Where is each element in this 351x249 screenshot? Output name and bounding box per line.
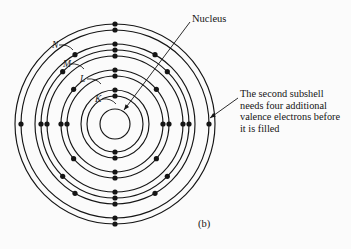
electron-dot bbox=[160, 121, 165, 126]
electron-dot bbox=[152, 191, 157, 196]
electron-dot bbox=[71, 87, 76, 92]
shell-label-leader-k bbox=[102, 99, 116, 104]
shell-label-l: L bbox=[79, 74, 85, 84]
nucleus bbox=[100, 109, 130, 139]
electron-dot bbox=[38, 121, 43, 126]
electron-dot bbox=[112, 67, 117, 72]
nucleus-annotation-label: Nucleus bbox=[192, 13, 226, 25]
shell-label-k: K bbox=[94, 94, 102, 104]
electron-dot bbox=[44, 121, 49, 126]
shell-ring-k-2 bbox=[81, 90, 149, 158]
electron-dot bbox=[112, 201, 117, 206]
shell-ring-k-1 bbox=[87, 96, 143, 152]
electron-dot bbox=[154, 156, 159, 161]
electron-dot bbox=[60, 174, 65, 179]
figure-caption: (b) bbox=[198, 218, 210, 229]
electron-dots bbox=[18, 21, 211, 226]
electron-dot bbox=[60, 69, 65, 74]
electron-dot bbox=[112, 47, 117, 52]
electron-dot bbox=[112, 73, 117, 78]
electron-dot bbox=[166, 121, 171, 126]
electron-dot bbox=[154, 87, 159, 92]
electron-dot bbox=[165, 174, 170, 179]
nucleus-circle bbox=[100, 109, 130, 139]
electron-dot bbox=[72, 52, 77, 57]
electron-dot bbox=[112, 53, 117, 58]
electron-dot bbox=[58, 121, 63, 126]
electron-dot bbox=[112, 27, 117, 32]
electron-dot bbox=[112, 41, 117, 46]
electron-dot bbox=[71, 156, 76, 161]
electron-dot bbox=[72, 191, 77, 196]
electron-dot bbox=[112, 221, 117, 226]
bohr-atom-figure: NMLK Nucleus The second subshell needs f… bbox=[0, 0, 351, 249]
electron-dot bbox=[186, 121, 191, 126]
electron-dot bbox=[112, 87, 117, 92]
nucleus-leader-arrowhead bbox=[124, 104, 129, 110]
nucleus-leader bbox=[124, 22, 190, 110]
electron-dot bbox=[112, 149, 117, 154]
electron-dot bbox=[112, 175, 117, 180]
shell-ring-l-2 bbox=[61, 70, 169, 178]
electron-dot bbox=[112, 169, 117, 174]
electron-dot bbox=[112, 215, 117, 220]
electron-dot bbox=[112, 93, 117, 98]
electron-dot bbox=[18, 121, 23, 126]
electron-dot bbox=[112, 155, 117, 160]
subshell-annotation-text: The second subshell needs four additiona… bbox=[240, 88, 348, 134]
electron-dot bbox=[206, 121, 211, 126]
electron-dot bbox=[112, 21, 117, 26]
electron-dot bbox=[112, 189, 117, 194]
electron-dot bbox=[64, 121, 69, 126]
electron-dot bbox=[165, 69, 170, 74]
electron-dot bbox=[152, 52, 157, 57]
electron-dot bbox=[180, 121, 185, 126]
leader-lines bbox=[124, 22, 238, 118]
shell-label-n: N bbox=[51, 40, 59, 50]
electron-dot bbox=[112, 195, 117, 200]
